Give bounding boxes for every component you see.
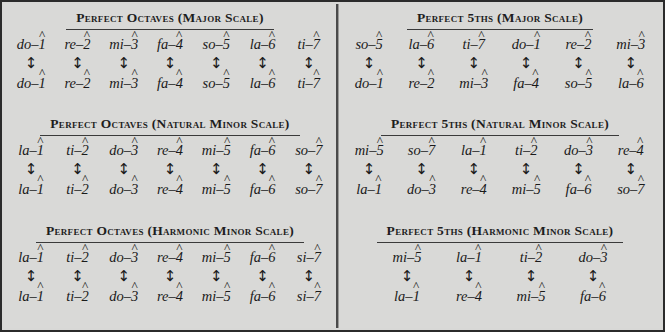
- syllable-text: la–: [409, 36, 428, 52]
- solfege-note: do–3^: [109, 288, 138, 304]
- syllable-text: la–: [250, 75, 269, 91]
- note-grid: la–1^↕la–1^ti–2^↕ti–2^do–3^↕do–3^re–4^↕r…: [4, 248, 336, 305]
- scale-degree-number: 6^: [268, 142, 275, 159]
- interval-pair: mi–5^↕la–1^: [376, 248, 438, 305]
- interval-pair: la–1^↕la–1^: [8, 141, 54, 198]
- scale-degree-number: 7^: [315, 181, 322, 198]
- syllable-text: mi–: [202, 288, 224, 304]
- caret-icon: ^: [131, 134, 137, 147]
- caret-icon: ^: [638, 172, 644, 185]
- syllable-text: so–: [295, 181, 315, 197]
- scale-degree-number: 7^: [314, 288, 321, 305]
- double-arrow-icon: ↕: [395, 56, 447, 72]
- solfege-note: mi–5^: [355, 142, 384, 158]
- caret-icon: ^: [539, 279, 545, 292]
- caret-icon: ^: [176, 66, 182, 79]
- caret-icon: ^: [176, 241, 182, 254]
- solfege-interval-reference-figure: Perfect Octaves (Major Scale)do–1^↕do–1^…: [0, 0, 665, 332]
- caret-icon: ^: [475, 279, 481, 292]
- scale-degree-number: 3^: [131, 288, 138, 305]
- solfege-note: re–4^: [157, 181, 183, 197]
- block-heading-wrap: Perfect 5ths (Natural Minor Scale): [339, 114, 661, 136]
- syllable-text: ti–: [515, 142, 530, 158]
- syllable-text: re–: [408, 75, 427, 91]
- double-arrow-icon: ↕: [54, 269, 100, 285]
- scale-degree-number: 1^: [533, 36, 540, 53]
- interval-pair: ti–2^↕mi–5^: [500, 248, 562, 305]
- scale-degree-number: 4^: [475, 288, 482, 305]
- caret-icon: ^: [84, 28, 90, 41]
- scale-degree-number: 4^: [480, 181, 487, 198]
- interval-pair: fa–6^↕fa–6^: [239, 248, 285, 305]
- syllable-text: re–: [157, 288, 176, 304]
- syllable-text: re–: [157, 142, 176, 158]
- caret-icon: ^: [428, 134, 434, 147]
- block-heading-wrap: Perfect 5ths (Harmonic Minor Scale): [339, 221, 661, 243]
- caret-icon: ^: [37, 172, 43, 185]
- solfege-note: re–2^: [408, 75, 434, 91]
- scale-degree-number: 5^: [533, 181, 540, 198]
- interval-pair: la–6^↕la–6^: [239, 35, 285, 92]
- scale-degree-number: 7^: [313, 36, 320, 53]
- scale-degree-number: 5^: [224, 181, 231, 198]
- interval-pair: mi–5^↕mi–5^: [193, 141, 239, 198]
- interval-pair: si–7^↕si–7^: [286, 248, 332, 305]
- double-arrow-icon: ↕: [500, 162, 552, 178]
- syllable-text: do–: [512, 36, 534, 52]
- scale-degree-number: 4^: [176, 75, 183, 92]
- syllable-text: la–: [18, 249, 37, 265]
- solfege-note: ti–7^: [298, 36, 321, 52]
- caret-icon: ^: [531, 134, 537, 147]
- interval-pair: re–2^↕re–2^: [54, 35, 100, 92]
- scale-degree-number: 7^: [314, 249, 321, 266]
- caret-icon: ^: [376, 28, 382, 41]
- solfege-note: la–1^: [394, 288, 420, 304]
- scale-degree-number: 7^: [315, 142, 322, 159]
- solfege-note: ti–7^: [298, 75, 321, 91]
- double-arrow-icon: ↕: [376, 269, 438, 285]
- syllable-text: re–: [461, 181, 480, 197]
- solfege-note: do–1^: [355, 75, 384, 91]
- scale-degree-number: 3^: [131, 181, 138, 198]
- scale-degree-number: 4^: [176, 181, 183, 198]
- caret-icon: ^: [224, 172, 230, 185]
- syllable-text: mi–: [202, 249, 224, 265]
- note-grid: mi–5^↕la–1^so–7^↕do–3^la–1^↕re–4^ti–2^↕m…: [339, 141, 661, 198]
- double-arrow-icon: ↕: [239, 269, 285, 285]
- syllable-text: la–: [18, 181, 37, 197]
- solfege-note: mi–5^: [202, 181, 231, 197]
- double-arrow-icon: ↕: [448, 56, 500, 72]
- solfege-note: fa–6^: [566, 181, 592, 197]
- block-heading: Perfect Octaves (Major Scale): [66, 10, 274, 30]
- syllable-text: do–: [578, 249, 600, 265]
- syllable-text: so–: [355, 36, 375, 52]
- solfege-note: do–1^: [17, 36, 46, 52]
- caret-icon: ^: [176, 279, 182, 292]
- caret-icon: ^: [413, 279, 419, 292]
- block-heading-wrap: Perfect Octaves (Harmonic Minor Scale): [4, 221, 336, 243]
- solfege-note: mi–3^: [616, 36, 645, 52]
- syllable-text: do–: [564, 142, 586, 158]
- scale-degree-number: 3^: [600, 249, 607, 266]
- caret-icon: ^: [536, 241, 542, 254]
- interval-pair: re–2^↕so–5^: [552, 35, 604, 92]
- syllable-text: mi–: [202, 181, 224, 197]
- scale-degree-number: 1^: [475, 249, 482, 266]
- solfege-note: ti–2^: [520, 249, 543, 265]
- solfege-note: ti–2^: [515, 142, 538, 158]
- caret-icon: ^: [375, 172, 381, 185]
- syllable-text: do–: [109, 288, 131, 304]
- solfege-note: la–1^: [18, 249, 44, 265]
- caret-icon: ^: [223, 28, 229, 41]
- interval-pair: re–4^↕re–4^: [147, 248, 193, 305]
- solfege-note: ti–7^: [463, 36, 486, 52]
- right-column-perfect-5ths: Perfect 5ths (Major Scale)so–5^↕do–1^la–…: [338, 4, 661, 328]
- solfege-note: do–1^: [17, 75, 46, 91]
- syllable-text: so–: [408, 142, 428, 158]
- caret-icon: ^: [639, 28, 645, 41]
- double-arrow-icon: ↕: [500, 269, 562, 285]
- caret-icon: ^: [269, 279, 275, 292]
- solfege-note: mi–5^: [202, 142, 231, 158]
- interval-block: Perfect Octaves (Major Scale)do–1^↕do–1^…: [4, 8, 336, 114]
- caret-icon: ^: [82, 241, 88, 254]
